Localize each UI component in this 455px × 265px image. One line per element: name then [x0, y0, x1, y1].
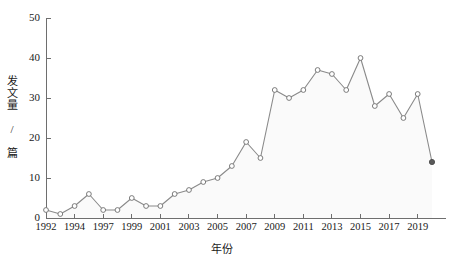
y-tick-label-20: 20 [29, 131, 41, 143]
x-tick-label-2019: 2019 [407, 221, 428, 232]
data-point-1999 [144, 204, 149, 209]
x-tick-label-2009: 2009 [264, 221, 285, 232]
data-point-1997 [115, 208, 120, 213]
x-tick-label-2017: 2017 [379, 221, 400, 232]
y-axis-title-char-6: 篇 [7, 146, 18, 159]
data-point-2002 [187, 188, 192, 193]
x-axis-tick-labels: 1992199419971999200120032005200720092011… [36, 221, 429, 232]
x-tick-label-1997: 1997 [93, 221, 114, 232]
data-point-1993 [58, 212, 63, 217]
x-axis-title: 年份 [211, 242, 233, 255]
data-point-2005 [229, 164, 234, 169]
data-point-1994 [72, 204, 77, 209]
y-axis-title: 发文量 / 篇 [7, 74, 18, 159]
data-point-2018 [415, 92, 420, 97]
data-point-2008 [272, 88, 277, 93]
y-axis-title-char-0: 发 [7, 74, 18, 87]
data-point-2000 [158, 204, 163, 209]
data-point-2017 [401, 116, 406, 121]
area-fill-path [46, 58, 432, 218]
y-axis-title-char-2: 量 [7, 99, 18, 111]
x-tick-label-2011: 2011 [293, 221, 314, 232]
series-area-fill [46, 58, 432, 218]
y-axis-title-char-1: 文 [7, 86, 18, 99]
y-tick-label-50: 50 [29, 11, 41, 23]
x-tick-label-1994: 1994 [64, 221, 86, 232]
y-axis-ticks [46, 18, 51, 218]
data-point-1996 [101, 208, 106, 213]
x-tick-label-1999: 1999 [121, 221, 142, 232]
publication-count-line-chart: 01020304050 1992199419971999200120032005… [0, 0, 455, 265]
x-tick-label-2003: 2003 [178, 221, 199, 232]
data-point-2011 [315, 68, 320, 73]
x-tick-label-2005: 2005 [207, 221, 228, 232]
data-point-2009 [287, 96, 292, 101]
data-point-2012 [330, 72, 335, 77]
x-tick-label-2015: 2015 [350, 221, 371, 232]
data-point-1992 [44, 208, 49, 213]
data-point-2004 [215, 176, 220, 181]
data-point-2007 [258, 156, 263, 161]
x-tick-label-2013: 2013 [321, 221, 342, 232]
y-tick-label-10: 10 [29, 171, 41, 183]
x-tick-label-1992: 1992 [36, 221, 57, 232]
y-axis-title-char-4: / [10, 123, 14, 135]
data-point-2006 [244, 140, 249, 145]
data-point-2014 [358, 56, 363, 61]
data-point-2013 [344, 88, 349, 93]
data-point-2015 [372, 104, 377, 109]
data-point-1995 [86, 192, 91, 197]
data-point-2010 [301, 88, 306, 93]
y-axis-tick-labels: 01020304050 [29, 11, 41, 223]
x-tick-label-2001: 2001 [150, 221, 171, 232]
data-point-2019 [429, 159, 434, 164]
y-tick-label-40: 40 [29, 51, 41, 63]
data-point-2003 [201, 180, 206, 185]
data-point-2001 [172, 192, 177, 197]
data-point-1998 [129, 196, 134, 201]
data-point-2016 [387, 92, 392, 97]
chart-canvas: 01020304050 1992199419971999200120032005… [0, 0, 455, 265]
y-tick-label-30: 30 [29, 91, 41, 103]
x-tick-label-2007: 2007 [236, 221, 257, 232]
